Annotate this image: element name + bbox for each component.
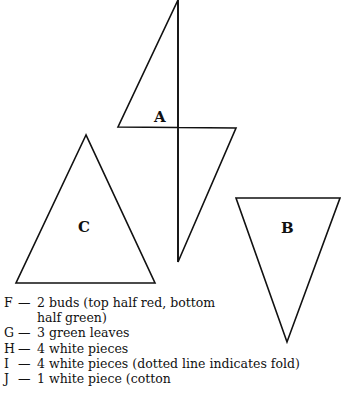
shape-c-label: C [78, 218, 90, 236]
legend-item-j: J — 1 white piece (cotton [4, 371, 300, 386]
legend-item-f-continuation: half green) [4, 310, 300, 325]
legend-item-h: H — 4 white pieces [4, 341, 300, 356]
shape-c-triangle [16, 135, 155, 283]
shape-a-diamond [118, 0, 236, 262]
legend-item-i: I — 4 white pieces (dotted line indicate… [4, 356, 300, 371]
legend-item-f: F — 2 buds (top half red, bottom [4, 295, 300, 310]
shape-a-label: A [153, 108, 166, 126]
legend: F — 2 buds (top half red, bottom half gr… [4, 295, 300, 386]
shape-b-label: B [281, 219, 294, 237]
legend-item-g: G — 3 green leaves [4, 325, 300, 340]
